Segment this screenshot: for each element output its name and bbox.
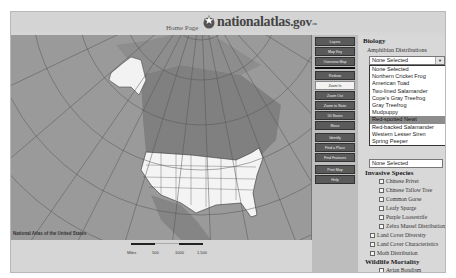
scale-unit: Miles xyxy=(127,250,136,255)
checkbox[interactable] xyxy=(379,179,384,184)
amphibian-select[interactable]: None Selected ▼ xyxy=(369,56,445,65)
find-features-button[interactable]: Find Features xyxy=(315,153,355,162)
checkbox-label: Avian Botulism xyxy=(386,267,421,272)
logo-suffix: .gov xyxy=(290,14,312,29)
scale-segment xyxy=(179,243,203,245)
amphibian-label: Amphibian Distributions xyxy=(367,47,427,53)
checkbox[interactable] xyxy=(379,268,384,273)
scale-segment xyxy=(131,243,155,245)
home-page-link[interactable]: Home Page xyxy=(166,24,198,32)
map-toolbar: Layers Map Key Overview Map Redraw Zoom … xyxy=(312,35,358,272)
checkbox[interactable] xyxy=(379,206,384,211)
checkbox-zebra-mussel[interactable]: Zebra Mussel Distribution xyxy=(379,223,445,229)
checkbox[interactable] xyxy=(379,197,384,202)
dropdown-option[interactable]: Cope's Gray Treefrog xyxy=(370,95,445,102)
atlas-window: nationalatlas.gov™ Home Page xyxy=(10,11,446,273)
scale-tick: 1000 xyxy=(175,250,184,255)
checkbox-chinese-privet[interactable]: Chinese Privet xyxy=(379,178,419,184)
dropdown-option[interactable]: American Toad xyxy=(370,80,445,87)
overview-map-button[interactable]: Overview Map xyxy=(315,57,355,66)
dropdown-option[interactable]: Red-backed Salamander xyxy=(370,124,445,131)
scale-bar: Miles 500 1000 1,500 xyxy=(11,240,311,262)
redraw-button[interactable]: Redraw xyxy=(315,71,355,80)
toolbar-divider xyxy=(315,67,355,69)
chevron-down-icon[interactable]: ▼ xyxy=(435,57,444,64)
trademark: ™ xyxy=(312,22,317,27)
identify-button[interactable]: Identify xyxy=(315,133,355,142)
amphibian-dropdown-list[interactable]: None Selected Northern Cricket Frog Amer… xyxy=(369,65,445,146)
map-caption: National Atlas of the United States xyxy=(13,231,86,236)
checkbox-label: Land Cover Diversity xyxy=(377,232,426,238)
dropdown-option[interactable]: None Selected xyxy=(370,66,445,73)
dropdown-option[interactable]: Northern Cricket Frog xyxy=(370,73,445,80)
checkbox-label: Moth Distribution xyxy=(377,250,418,256)
checkbox-chinese-tallow-tree[interactable]: Chinese Tallow Tree xyxy=(379,187,432,193)
zoom-in-button[interactable]: Zoom In xyxy=(315,81,355,90)
checkbox[interactable] xyxy=(379,188,384,193)
wildlife-mortality-heading: Wildlife Mortality xyxy=(365,258,420,266)
checkbox-label: Land Cover Characteristics xyxy=(377,241,438,247)
checkbox-land-cover-characteristics[interactable]: Land Cover Characteristics xyxy=(370,241,438,247)
print-map-button[interactable]: Print Map xyxy=(315,165,355,174)
checkbox[interactable] xyxy=(379,215,384,220)
biology-heading: Biology xyxy=(363,37,386,45)
zoom-out-button[interactable]: Zoom Out xyxy=(315,91,355,100)
map-key-button[interactable]: Map Key xyxy=(315,47,355,56)
star-globe-icon xyxy=(201,15,217,29)
checkbox-common-gorse[interactable]: Common Gorse xyxy=(379,196,422,202)
checkbox-label: Purple Loosestrife xyxy=(386,214,427,220)
checkbox-label: Zebra Mussel Distribution xyxy=(386,223,445,229)
layers-panel: Biology Amphibian Distributions None Sel… xyxy=(359,35,445,272)
national-atlas-logo[interactable]: nationalatlas.gov™ xyxy=(201,14,316,30)
dropdown-option[interactable]: Western Lesser Siren xyxy=(370,131,445,138)
second-layer-select[interactable]: None Selected xyxy=(369,159,443,168)
amphibian-select-value: None Selected xyxy=(372,57,408,63)
second-select-value: None Selected xyxy=(372,160,408,166)
layers-button[interactable]: Layers xyxy=(315,37,355,46)
scale-segment xyxy=(155,243,179,244)
dropdown-option[interactable]: Gray Treefrog xyxy=(370,102,445,109)
move-button[interactable]: Move xyxy=(315,121,355,130)
scale-tick: 500 xyxy=(152,250,159,255)
header: nationalatlas.gov™ Home Page xyxy=(11,12,445,32)
invasive-species-heading: Invasive Species xyxy=(365,169,413,177)
help-button[interactable]: Help xyxy=(315,175,355,184)
map-canvas[interactable]: National Atlas of the United States ▲▼ xyxy=(11,35,312,240)
checkbox[interactable] xyxy=(370,233,375,238)
checkbox-label: Chinese Tallow Tree xyxy=(386,187,432,193)
scale-tick: 1,500 xyxy=(197,250,207,255)
checkbox[interactable] xyxy=(379,224,384,229)
dropdown-option-highlighted[interactable]: Red-spotted Newt xyxy=(370,116,445,123)
checkbox-label: Chinese Privet xyxy=(386,178,419,184)
checkbox-leafy-spurge[interactable]: Leafy Spurge xyxy=(379,205,416,211)
checkbox-moth-distribution[interactable]: Moth Distribution xyxy=(370,250,418,256)
checkbox-purple-loosestrife[interactable]: Purple Loosestrife xyxy=(379,214,427,220)
dropdown-option[interactable]: Spring Peeper xyxy=(370,138,445,145)
dropdown-option[interactable]: Two-lined Salamander xyxy=(370,88,445,95)
checkbox-label: Common Gorse xyxy=(386,196,422,202)
find-a-place-button[interactable]: Find a Place xyxy=(315,143,355,152)
checkbox[interactable] xyxy=(370,251,375,256)
zoom-to-state-button[interactable]: Zoom to State xyxy=(315,101,355,110)
logo-text: nationalatlas xyxy=(217,14,290,29)
checkbox-label: Leafy Spurge xyxy=(386,205,416,211)
checkbox[interactable] xyxy=(370,242,375,247)
checkbox-avian-botulism[interactable]: Avian Botulism xyxy=(379,267,421,272)
checkbox-land-cover-diversity[interactable]: Land Cover Diversity xyxy=(370,232,426,238)
50-states-button[interactable]: 50 States xyxy=(315,111,355,120)
dropdown-option[interactable]: Mudpuppy xyxy=(370,109,445,116)
